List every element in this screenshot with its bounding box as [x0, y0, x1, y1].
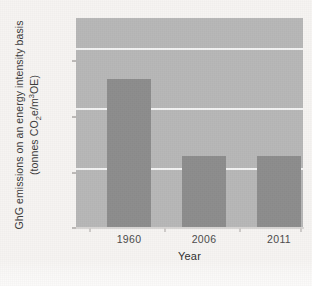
y-tick-mark-0-5 — [72, 172, 76, 174]
y-tick-mark-0 — [72, 227, 76, 229]
y-axis-units-sub: 2 — [34, 116, 43, 120]
y-axis-units-suffix: OE) — [28, 75, 40, 94]
y-tick-mark-1-5 — [72, 60, 76, 62]
x-tick-label-1960: 1960 — [99, 233, 159, 245]
y-axis-units-prefix: (tonnes CO — [28, 120, 40, 175]
gridline-1-5 — [76, 48, 303, 50]
plot-area — [76, 18, 303, 228]
bar-1960 — [107, 79, 151, 228]
y-axis-title-line2: (tonnes CO2e/m3OE) — [27, 20, 42, 230]
x-axis-title: Year — [76, 250, 303, 262]
x-tick-mark-1960 — [164, 228, 166, 232]
x-tick-label-2011: 2011 — [249, 233, 309, 245]
x-axis-baseline — [76, 227, 304, 229]
x-tick-mark-2006 — [239, 228, 241, 232]
bar-2006 — [182, 156, 226, 228]
y-axis-units-mid: e/m — [28, 98, 40, 116]
bar-chart-figure: 1.5 1.0 0.5 0 GhG emissions on an energy… — [0, 0, 312, 286]
paper-bottom-edge — [0, 260, 312, 286]
y-tick-mark-1-0 — [72, 116, 76, 118]
y-axis-units-sup: 3 — [27, 94, 36, 98]
bar-2011 — [257, 156, 301, 228]
y-axis-title: GhG emissions on an energy intensity bas… — [12, 20, 42, 230]
x-tick-mark-2011 — [300, 228, 302, 232]
x-tick-mark-0 — [89, 228, 91, 232]
y-axis-title-line1: GhG emissions on an energy intensity bas… — [13, 20, 25, 229]
x-tick-label-2006: 2006 — [174, 233, 234, 245]
